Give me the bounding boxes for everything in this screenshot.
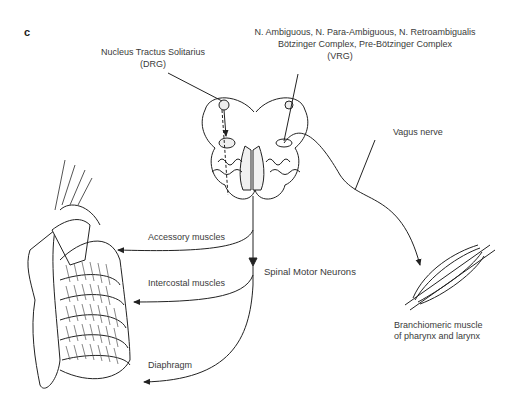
branchiomeric-label-2: of pharynx and larynx bbox=[394, 331, 480, 342]
vrg-nuclei-label: N. Ambiguous, N. Para-Ambiguous, N. Retr… bbox=[245, 27, 485, 38]
diagram-drawing bbox=[0, 0, 510, 411]
botzinger-label: Bötzinger Complex, Pre-Bötzinger Complex bbox=[245, 39, 485, 50]
branchiomeric-muscle-drawing bbox=[405, 245, 495, 310]
accessory-muscles-label: Accessory muscles bbox=[148, 232, 225, 243]
diaphragm-label: Diaphragm bbox=[148, 360, 192, 371]
respiratory-control-diagram: c bbox=[0, 0, 510, 411]
drg-label: (DRG) bbox=[133, 59, 173, 70]
vagus-nerve-label: Vagus nerve bbox=[393, 127, 443, 138]
intercostal-muscles-label: Intercostal muscles bbox=[148, 278, 225, 289]
branchiomeric-label-1: Branchiomeric muscle bbox=[394, 320, 483, 331]
vrg-label: (VRG) bbox=[320, 51, 360, 62]
ribcage-drawing bbox=[28, 160, 130, 388]
nts-label: Nucleus Tractus Solitarius bbox=[98, 47, 208, 58]
spinal-motor-neurons-label: Spinal Motor Neurons bbox=[264, 266, 356, 277]
